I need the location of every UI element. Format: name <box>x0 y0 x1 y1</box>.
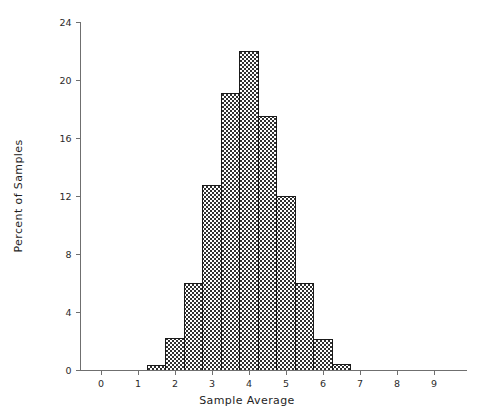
y-axis-title: Percent of Samples <box>12 139 25 252</box>
histogram-bar-fill <box>332 364 351 370</box>
x-tick-label: 9 <box>431 378 437 389</box>
histogram-bar-fill <box>221 93 240 370</box>
bars-group <box>147 51 351 370</box>
histogram-bar-fill <box>184 283 203 370</box>
x-tick-label: 3 <box>209 378 215 389</box>
histogram-bar-fill <box>295 283 314 370</box>
histogram-bar-fill <box>147 366 166 370</box>
histogram-svg: 0123456789 04812162024 Sample Average Pe… <box>0 0 494 412</box>
y-tick-label: 20 <box>60 75 72 86</box>
plot-area: 0123456789 04812162024 Sample Average Pe… <box>0 0 494 412</box>
chart-figure: 0123456789 04812162024 Sample Average Pe… <box>0 0 494 412</box>
x-tick-label: 2 <box>172 378 178 389</box>
histogram-bar-fill <box>203 186 222 370</box>
x-tick-label: 7 <box>357 378 363 389</box>
x-tick-label: 0 <box>98 378 104 389</box>
x-tick-label: 4 <box>246 378 252 389</box>
y-tick-label: 12 <box>60 191 72 202</box>
y-tick-label: 0 <box>66 365 72 376</box>
x-axis-title: Sample Average <box>199 394 295 407</box>
x-tick-label: 6 <box>320 378 326 389</box>
y-tick-label: 16 <box>60 133 72 144</box>
histogram-bar-fill <box>166 338 185 370</box>
y-tick-label: 8 <box>66 249 72 260</box>
x-tick-label: 5 <box>283 378 289 389</box>
x-tick-group: 0123456789 <box>98 370 437 389</box>
histogram-bar-fill <box>258 116 277 370</box>
x-tick-label: 8 <box>394 378 400 389</box>
y-tick-label: 4 <box>66 307 72 318</box>
y-tick-group: 04812162024 <box>60 17 81 376</box>
histogram-bar-fill <box>277 196 296 370</box>
y-tick-label: 24 <box>60 17 72 28</box>
x-tick-label: 1 <box>135 378 141 389</box>
histogram-bar-fill <box>240 51 259 370</box>
histogram-bar-fill <box>314 340 333 370</box>
